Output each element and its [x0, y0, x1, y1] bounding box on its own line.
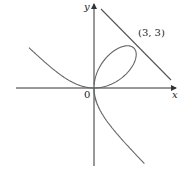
- point-label: (3, 3): [138, 27, 165, 38]
- diagram: y x 0 (3, 3): [0, 0, 193, 177]
- folium-curve: [29, 46, 144, 164]
- y-axis-label: y: [84, 1, 90, 12]
- tangent-line: [101, 9, 171, 80]
- origin-label: 0: [84, 89, 90, 100]
- x-axis-label: x: [172, 89, 178, 100]
